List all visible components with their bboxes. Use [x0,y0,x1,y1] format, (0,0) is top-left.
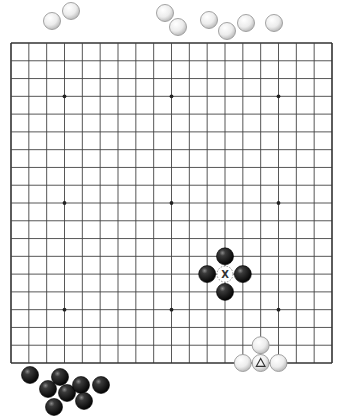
star-point [170,308,174,312]
star-point [170,94,174,98]
star-point [63,94,67,98]
black-stone[interactable] [217,283,234,300]
captured-white-stone [44,13,61,30]
captured-white-stone [201,12,218,29]
star-point [277,201,281,205]
captured-black-stone [22,367,39,384]
captured-black-stone [76,393,93,410]
x-point-marker[interactable]: X [217,266,233,282]
captured-black-stone [46,399,63,416]
star-point [170,201,174,205]
star-point [63,308,67,312]
white-stone-triangle-marked[interactable] [252,355,269,372]
captured-white-stone [63,3,80,20]
star-point [277,308,281,312]
captured-white-stone [157,5,174,22]
white-stone[interactable] [234,355,251,372]
captured-white-stone [170,19,187,36]
captured-white-stone [219,23,236,40]
star-point [63,201,67,205]
captured-white-stone [266,15,283,32]
x-label: X [221,269,229,280]
star-point [277,94,281,98]
captured-white-stone [238,15,255,32]
captured-stones [22,3,283,416]
captured-black-stone [73,377,90,394]
board-markers: X [217,266,233,282]
captured-black-stone [40,381,57,398]
black-stone[interactable] [234,266,251,283]
black-stone[interactable] [199,266,216,283]
white-stone[interactable] [252,337,269,354]
black-stone[interactable] [217,248,234,265]
go-diagram: X [0,0,337,418]
go-board: X [0,0,337,418]
white-stone[interactable] [270,355,287,372]
captured-black-stone [93,377,110,394]
